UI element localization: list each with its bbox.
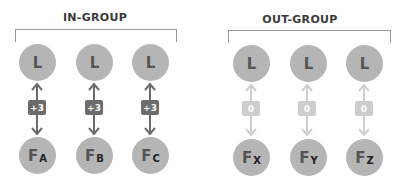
leader-label: L: [360, 55, 370, 73]
follower-subscript: A: [39, 153, 47, 164]
leader-node-x: L: [233, 45, 270, 82]
out-group-label: OUT-GROUP: [250, 13, 350, 26]
leader-label: L: [247, 55, 257, 73]
relationship-badge: +3: [85, 100, 103, 115]
follower-subscript: Z: [366, 155, 373, 166]
out-group-bracket: [228, 30, 391, 43]
leader-label: L: [33, 54, 43, 72]
leader-label: L: [304, 55, 314, 73]
in-group-label: IN-GROUP: [45, 11, 145, 24]
leader-node-z: L: [346, 45, 383, 82]
follower-node-z: FZ: [346, 139, 383, 176]
leader-node-y: L: [290, 45, 327, 82]
leader-label: L: [90, 54, 100, 72]
follower-subscript: C: [152, 153, 159, 164]
in-group-bracket: [15, 29, 177, 42]
follower-label: F: [242, 149, 252, 167]
follower-label: F: [141, 147, 151, 165]
follower-label: F: [299, 149, 309, 167]
relationship-badge: 0: [242, 101, 260, 116]
follower-node-c: FC: [132, 137, 169, 174]
relationship-badge: +3: [28, 100, 46, 115]
follower-subscript: X: [253, 155, 261, 166]
follower-subscript: B: [96, 153, 104, 164]
leader-node-c: L: [132, 44, 169, 81]
follower-node-y: FY: [290, 139, 327, 176]
follower-node-a: FA: [19, 137, 56, 174]
follower-subscript: Y: [311, 155, 318, 166]
relationship-badge: +3: [141, 100, 159, 115]
follower-node-x: FX: [233, 139, 270, 176]
relationship-badge: 0: [298, 101, 316, 116]
leader-node-b: L: [76, 44, 113, 81]
follower-label: F: [28, 147, 38, 165]
follower-label: F: [355, 149, 365, 167]
relationship-badge: 0: [355, 101, 373, 116]
follower-node-b: FB: [76, 137, 113, 174]
leader-label: L: [146, 54, 156, 72]
leader-node-a: L: [19, 44, 56, 81]
follower-label: F: [85, 147, 95, 165]
